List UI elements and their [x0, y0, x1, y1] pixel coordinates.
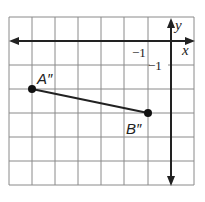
y-axis-label: y — [173, 17, 182, 33]
x-tick-label: −1 — [132, 45, 146, 60]
point-b-label: B″ — [126, 120, 142, 137]
coordinate-grid-diagram: y x −1 −1 A″ B″ — [0, 0, 205, 202]
point-b — [144, 109, 152, 117]
y-axis-top-arrow-icon — [167, 18, 175, 28]
segment-a-b — [32, 89, 148, 113]
y-tick-label: −1 — [148, 58, 162, 73]
point-a-label: A″ — [36, 70, 53, 87]
x-axis-left-arrow-icon — [9, 37, 19, 45]
x-axis — [9, 37, 195, 45]
point-a — [28, 85, 36, 93]
x-axis-label: x — [181, 42, 189, 58]
grid-lines — [9, 17, 194, 185]
